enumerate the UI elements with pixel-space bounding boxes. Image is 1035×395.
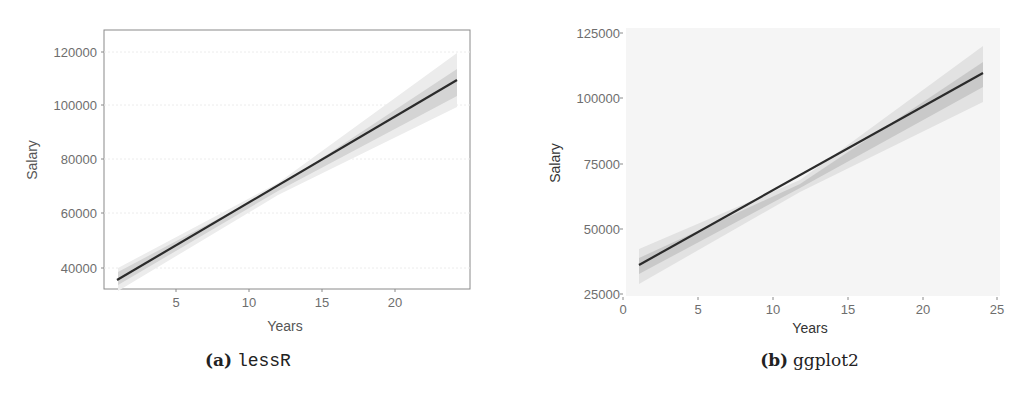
chart-lessr: 120000 100000 80000 60000 40000 5 10 15 … <box>0 0 520 345</box>
chart-ggplot2: 125000 100000 75000 50000 25000 0 5 10 1… <box>520 0 1035 345</box>
y-tick-label: 120000 <box>54 45 97 60</box>
caption-package: ggplot2 <box>793 350 859 370</box>
y-tick-label: 80000 <box>61 152 97 167</box>
x-tick-label: 25 <box>990 302 1004 317</box>
figure-lessr: 120000 100000 80000 60000 40000 5 10 15 … <box>0 0 520 395</box>
x-tick-label: 20 <box>916 302 930 317</box>
x-tick-label: 0 <box>619 302 626 317</box>
y-axis-title: Salary <box>547 143 563 183</box>
figure-caption: (b) ggplot2 <box>552 350 1035 371</box>
figure-caption: (a) lessR <box>0 350 508 371</box>
x-tick-label: 10 <box>242 295 256 310</box>
y-ticks <box>620 33 623 294</box>
x-tick-label: 20 <box>388 295 402 310</box>
y-tick-label: 60000 <box>61 206 97 221</box>
figure-ggplot2: 125000 100000 75000 50000 25000 0 5 10 1… <box>520 0 1035 395</box>
y-tick-label: 125000 <box>577 26 620 41</box>
caption-tag: (b) <box>760 350 788 370</box>
x-ticks <box>623 297 997 300</box>
caption-tag: (a) <box>205 350 232 370</box>
caption-package: lessR <box>237 351 291 371</box>
y-tick-label: 100000 <box>577 91 620 106</box>
x-tick-label: 15 <box>315 295 329 310</box>
x-tick-label: 5 <box>172 295 179 310</box>
x-tick-label: 5 <box>694 302 701 317</box>
x-tick-label: 10 <box>766 302 780 317</box>
x-tick-label: 15 <box>841 302 855 317</box>
x-axis-title: Years <box>792 320 827 336</box>
y-axis-title: Salary <box>24 140 40 180</box>
y-tick-label: 50000 <box>584 222 620 237</box>
y-tick-label: 40000 <box>61 261 97 276</box>
y-tick-label: 25000 <box>584 287 620 302</box>
y-tick-label: 75000 <box>584 157 620 172</box>
y-tick-label: 100000 <box>54 98 97 113</box>
x-axis-title: Years <box>267 318 302 334</box>
